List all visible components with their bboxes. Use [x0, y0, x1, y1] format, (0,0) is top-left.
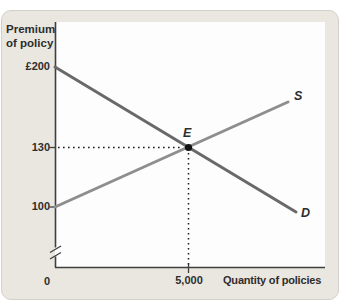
y-tick-label-100: 100	[0, 200, 50, 212]
y-tick-label-200: £200	[0, 60, 50, 72]
y-axis-title-line1: Premium	[6, 23, 55, 37]
y-axis-title-line2: of policy	[6, 37, 55, 51]
screenshot-canvas: Premium of policy £200 130 100 0 5,000 Q…	[0, 0, 347, 307]
equilibrium-label: E	[183, 126, 191, 140]
supply-curve-label: S	[294, 89, 302, 103]
y-tick-label-130: 130	[0, 141, 50, 153]
supply-curve	[55, 102, 288, 207]
x-tick-label-5000: 5,000	[160, 274, 218, 286]
equilibrium-dot	[185, 144, 192, 151]
y-axis-title: Premium of policy	[6, 23, 55, 50]
x-axis-title: Quantity of policies	[223, 274, 321, 286]
demand-curve-label: D	[301, 206, 310, 220]
origin-label: 0	[0, 275, 50, 287]
